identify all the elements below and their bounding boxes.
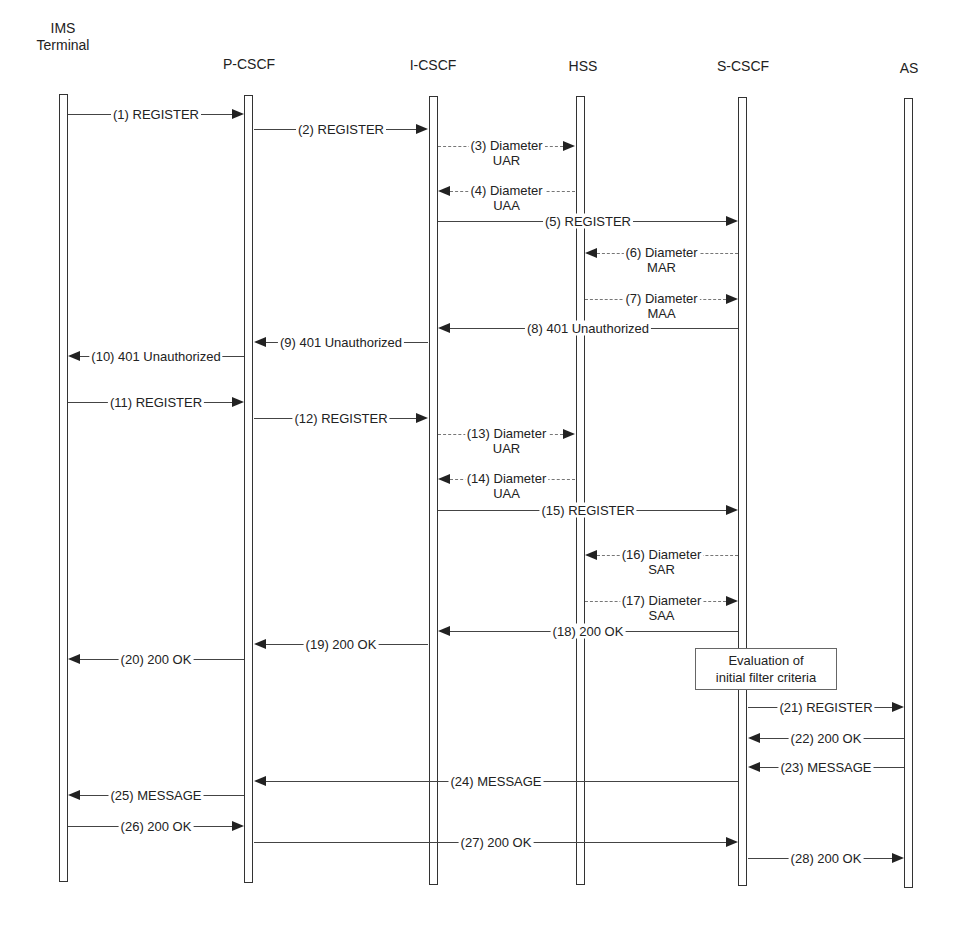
arrow-right-icon: [892, 853, 904, 863]
message-label: (28) 200 OK: [789, 851, 864, 866]
arrow-right-icon: [563, 429, 575, 439]
arrow-right-icon: [232, 821, 244, 831]
arrow-left-icon: [585, 248, 597, 258]
arrow-right-icon: [726, 596, 738, 606]
message-label: (10) 401 Unauthorized: [89, 349, 222, 364]
message-label: (27) 200 OK: [459, 835, 534, 850]
lifeline-ims-terminal: [59, 94, 68, 882]
message-label: (11) REGISTER: [108, 395, 204, 410]
arrow-left-icon: [254, 776, 266, 786]
entity-hss: HSS: [569, 58, 598, 75]
message-label: (23) MESSAGE: [778, 760, 873, 775]
arrow-right-icon: [232, 109, 244, 119]
message-label: (24) MESSAGE: [448, 774, 543, 789]
arrow-right-icon: [416, 413, 428, 423]
arrow-left-icon: [68, 654, 80, 664]
arrow-right-icon: [726, 216, 738, 226]
message-label: (16) DiameterSAR: [620, 547, 703, 577]
arrow-left-icon: [748, 733, 760, 743]
message-label: (15) REGISTER: [539, 503, 636, 518]
arrow-left-icon: [438, 626, 450, 636]
message-label: (1) REGISTER: [111, 107, 201, 122]
arrow-right-icon: [563, 141, 575, 151]
entity-ims-terminal: IMS Terminal: [37, 20, 90, 54]
message-label: (12) REGISTER: [292, 411, 389, 426]
entity-i-cscf: I-CSCF: [410, 57, 457, 74]
arrow-left-icon: [438, 323, 450, 333]
sequence-diagram: IMS Terminal P-CSCF I-CSCF HSS S-CSCF AS…: [0, 0, 955, 926]
arrow-left-icon: [748, 762, 760, 772]
arrow-right-icon: [726, 837, 738, 847]
note-line: initial filter criteria: [696, 669, 836, 686]
evaluation-note: Evaluation of initial filter criteria: [695, 648, 837, 690]
arrow-left-icon: [68, 790, 80, 800]
message-label: (17) DiameterSAA: [620, 593, 703, 623]
message-label: (14) DiameterUAA: [465, 471, 548, 501]
message-label: (6) DiameterMAR: [623, 245, 699, 275]
message-label: (9) 401 Unauthorized: [278, 335, 404, 350]
entity-as: AS: [900, 60, 919, 77]
message-label: (3) DiameterUAR: [468, 138, 544, 168]
lifeline-as: [904, 98, 913, 888]
arrow-right-icon: [726, 294, 738, 304]
arrow-left-icon: [585, 550, 597, 560]
lifeline-p-cscf: [244, 95, 253, 883]
lifeline-i-cscf: [429, 96, 438, 885]
arrow-left-icon: [68, 351, 80, 361]
entity-p-cscf: P-CSCF: [223, 56, 275, 73]
arrow-left-icon: [254, 639, 266, 649]
message-label: (18) 200 OK: [551, 624, 626, 639]
arrow-left-icon: [438, 186, 450, 196]
note-line: Evaluation of: [696, 652, 836, 669]
arrow-right-icon: [892, 702, 904, 712]
message-label: (20) 200 OK: [119, 652, 194, 667]
arrow-right-icon: [726, 505, 738, 515]
arrow-right-icon: [416, 124, 428, 134]
message-label: (13) DiameterUAR: [465, 426, 548, 456]
arrow-left-icon: [438, 474, 450, 484]
message-label: (22) 200 OK: [789, 731, 864, 746]
message-label: (2) REGISTER: [296, 122, 386, 137]
message-label: (4) DiameterUAA: [468, 183, 544, 213]
entity-label: IMS: [37, 20, 90, 37]
message-label: (19) 200 OK: [304, 637, 379, 652]
message-label: (25) MESSAGE: [108, 788, 203, 803]
entity-label: Terminal: [37, 37, 90, 54]
message-label: (26) 200 OK: [119, 819, 194, 834]
message-label: (21) REGISTER: [777, 700, 874, 715]
lifeline-s-cscf: [738, 97, 747, 886]
message-label: (7) DiameterMAA: [623, 291, 699, 321]
message-label: (5) REGISTER: [543, 214, 633, 229]
arrow-left-icon: [254, 337, 266, 347]
entity-s-cscf: S-CSCF: [717, 58, 769, 75]
message-label: (8) 401 Unauthorized: [525, 321, 651, 336]
arrow-right-icon: [232, 397, 244, 407]
